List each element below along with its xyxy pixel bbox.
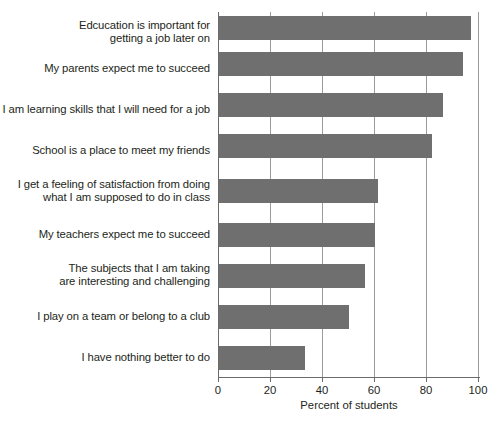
x-axis-title: Percent of students xyxy=(218,399,480,412)
bar-1 xyxy=(219,52,463,76)
category-labels: Edcucation is important for getting a jo… xyxy=(0,0,214,377)
bar-4 xyxy=(219,179,378,203)
bar-5 xyxy=(219,223,375,247)
category-label-6: The subjects that I am taking are intere… xyxy=(0,262,210,288)
category-label-7: I play on a team or belong to a club xyxy=(0,310,210,323)
category-label-3: School is a place to meet my friends xyxy=(0,144,210,157)
tick-label-100: 100 xyxy=(469,384,488,397)
tick-mark-40 xyxy=(322,377,323,382)
tick-mark-80 xyxy=(426,377,427,382)
tick-mark-20 xyxy=(270,377,271,382)
tick-label-20: 20 xyxy=(264,384,277,397)
bar-7 xyxy=(219,305,349,329)
bar-8 xyxy=(219,346,305,370)
tick-label-60: 60 xyxy=(368,384,381,397)
plot-area xyxy=(218,12,479,377)
category-label-0: Edcucation is important for getting a jo… xyxy=(0,19,210,45)
gridline-100 xyxy=(478,12,479,377)
x-axis-line xyxy=(218,377,480,378)
tick-mark-0 xyxy=(218,377,219,382)
bar-6 xyxy=(219,264,365,288)
tick-label-0: 0 xyxy=(215,384,221,397)
bar-0 xyxy=(219,16,471,40)
tick-mark-100 xyxy=(478,377,479,382)
category-label-8: I have nothing better to do xyxy=(0,351,210,364)
category-label-4: I get a feeling of satisfaction from doi… xyxy=(0,178,210,204)
tick-label-40: 40 xyxy=(316,384,329,397)
bar-chart: Edcucation is important for getting a jo… xyxy=(0,0,501,421)
tick-label-80: 80 xyxy=(420,384,433,397)
category-label-1: My parents expect me to succeed xyxy=(0,62,210,75)
tick-mark-60 xyxy=(374,377,375,382)
bar-2 xyxy=(219,93,443,117)
bar-3 xyxy=(219,134,432,158)
category-label-2: I am learning skills that I will need fo… xyxy=(0,103,210,116)
category-label-5: My teachers expect me to succeed xyxy=(0,228,210,241)
